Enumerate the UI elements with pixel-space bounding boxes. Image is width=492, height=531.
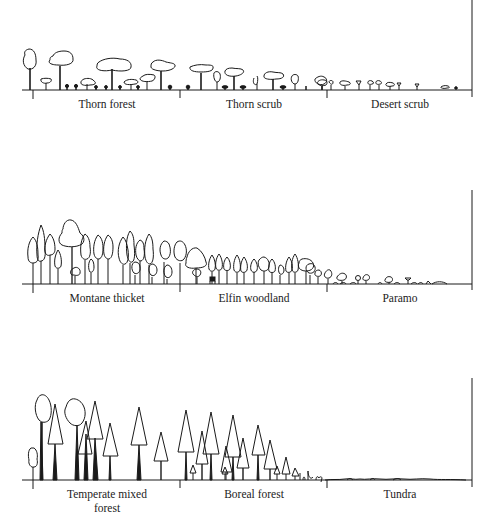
zone-label-thorn-scrub: Thorn scrub <box>204 97 304 111</box>
zone-label-temperate-mixed-forest: Temperate mixed forest <box>47 487 167 515</box>
panel-montane-paramo: Montane thicket Elfin woodland Paramo <box>0 185 492 315</box>
panel-temperate-tundra: Temperate mixed forest Boreal forest Tun… <box>0 370 492 531</box>
zone-label-desert-scrub: Desert scrub <box>350 97 450 111</box>
zone-label-tundra: Tundra <box>360 487 440 501</box>
paramo-vegetation <box>324 270 447 284</box>
panel-thorn-desert: Thorn forest Thorn scrub Desert scrub <box>0 0 492 120</box>
zone-label-thorn-forest: Thorn forest <box>57 97 157 111</box>
montane-thicket-trees <box>28 220 172 284</box>
elfin-woodland-trees <box>174 241 321 284</box>
thorn-forest-trees <box>23 49 175 90</box>
zone-label-boreal-forest: Boreal forest <box>199 487 309 501</box>
thorn-scrub-trees <box>186 65 326 90</box>
zone-label-paramo: Paramo <box>360 291 440 305</box>
desert-scrub-shrubs <box>317 80 457 90</box>
zone-label-elfin-woodland: Elfin woodland <box>199 291 309 305</box>
temperate-mixed-forest-trees <box>28 395 168 480</box>
boreal-forest-trees <box>178 410 299 480</box>
zone-label-montane-thicket: Montane thicket <box>47 291 167 305</box>
